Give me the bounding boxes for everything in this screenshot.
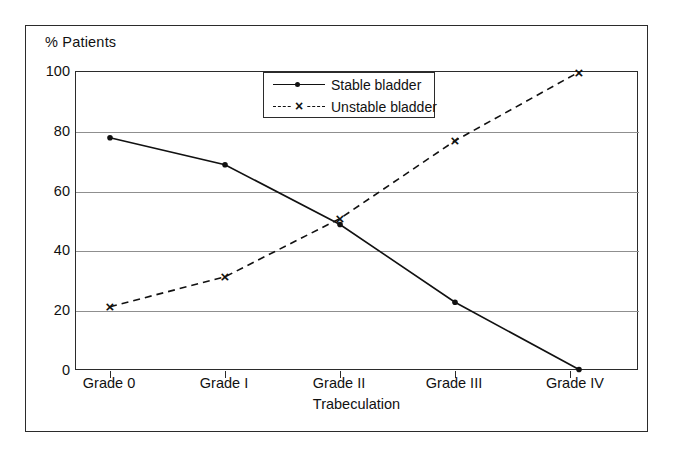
x-tick-label: Grade I bbox=[200, 375, 248, 391]
data-point bbox=[222, 162, 228, 168]
data-point bbox=[452, 299, 458, 305]
legend-item-stable-bladder: Stable bladder bbox=[264, 73, 436, 96]
series-markers-stable-bladder bbox=[107, 135, 582, 372]
data-point: × bbox=[221, 268, 230, 285]
y-tick-label: 20 bbox=[54, 302, 70, 318]
data-point bbox=[576, 367, 582, 373]
y-tick-label: 0 bbox=[62, 362, 70, 378]
x-tick-label: Grade II bbox=[313, 375, 365, 391]
y-axis-tick-labels: 100 80 60 40 20 0 bbox=[25, 71, 70, 370]
data-point: × bbox=[575, 64, 584, 81]
legend-key-dashed-line-x-icon: × bbox=[271, 99, 327, 115]
y-tick-label: 60 bbox=[54, 183, 70, 199]
y-tick-label: 80 bbox=[54, 123, 70, 139]
data-point: × bbox=[336, 210, 345, 227]
legend-label: Stable bladder bbox=[331, 77, 421, 93]
x-tick-label: Grade III bbox=[426, 375, 482, 391]
legend-key-solid-line-dot-icon bbox=[271, 77, 327, 93]
data-point: × bbox=[451, 132, 460, 149]
data-point bbox=[107, 135, 113, 141]
x-axis-title: Trabeculation bbox=[75, 396, 638, 412]
legend-label: Unstable bladder bbox=[331, 99, 437, 115]
series-line-stable-bladder bbox=[110, 138, 579, 370]
y-axis-label: % Patients bbox=[45, 34, 116, 50]
y-tick-label: 40 bbox=[54, 242, 70, 258]
legend-item-unstable-bladder: × Unstable bladder bbox=[264, 95, 436, 118]
x-tick-label: Grade 0 bbox=[83, 375, 135, 391]
y-tick-label: 100 bbox=[46, 63, 70, 79]
chart-legend: Stable bladder × Unstable bladder bbox=[263, 72, 435, 118]
chart-page: % Patients 100 80 60 40 20 0 ××××× Grade… bbox=[0, 0, 673, 457]
data-point: × bbox=[106, 298, 115, 315]
x-axis-tick-labels: Grade 0 Grade I Grade II Grade III Grade… bbox=[75, 375, 638, 395]
x-tick-label: Grade IV bbox=[546, 375, 604, 391]
